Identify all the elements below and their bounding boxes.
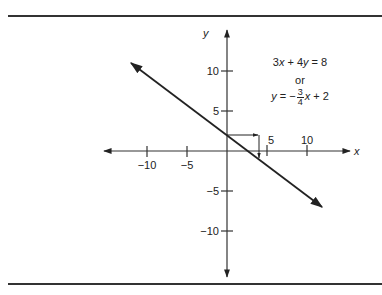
coordinate-plane: −10 −5 5 10 10 5 −5 −10 x y [0,0,382,295]
x-tick-label: −5 [181,159,194,171]
equation-slope-intercept: y = −34x + 2 [245,88,355,107]
y-tick-label: 10 [207,65,219,77]
equation-or: or [245,74,355,87]
x-tick-label: −10 [138,159,157,171]
eq-equals: = − [277,90,296,102]
eq-coef: + 4 [284,56,303,68]
x-axis-label: x [353,145,360,157]
x-tick-label: 10 [301,134,313,146]
y-axis-label: y [202,27,210,39]
y-tick-label: −5 [206,185,219,197]
eq-rhs: = 8 [309,56,328,68]
y-tick-label: −10 [200,225,219,237]
equation-standard: 3x + 4y = 8 [245,56,355,69]
eq-fraction: 34 [297,88,304,107]
y-tick-label: 5 [213,105,219,117]
eq-tail: + 2 [310,90,329,102]
eq-frac-den: 4 [297,98,304,107]
x-tick-label: 5 [268,134,274,146]
